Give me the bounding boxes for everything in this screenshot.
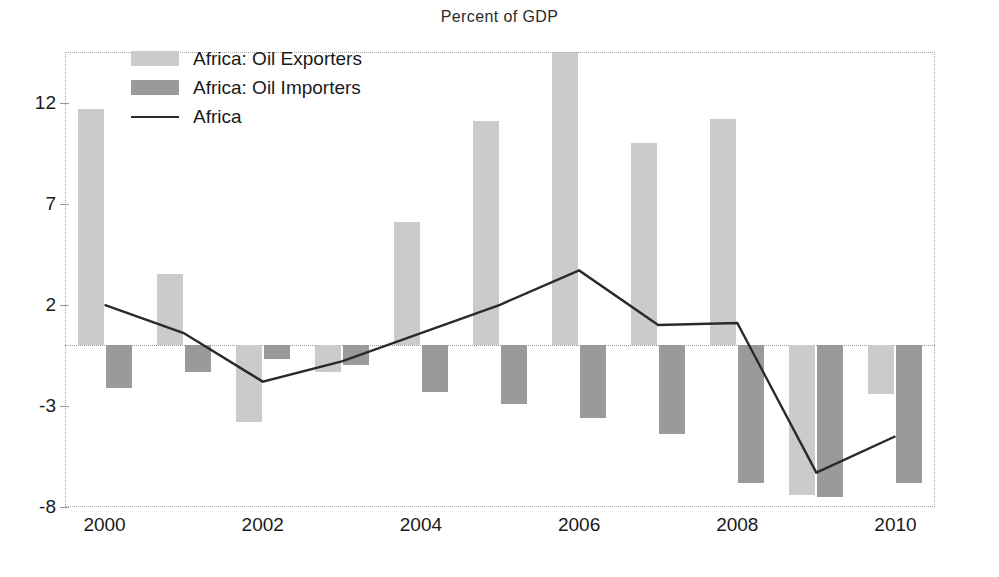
legend-item-oil-importers: Africa: Oil Importers xyxy=(131,73,362,102)
legend-item-africa: Africa xyxy=(131,102,362,131)
legend-swatch-oil-exporters-icon xyxy=(131,51,179,66)
legend-item-oil-exporters: Africa: Oil Exporters xyxy=(131,44,362,73)
legend-label-africa: Africa xyxy=(193,106,242,128)
x-tick-label: 2002 xyxy=(242,514,284,536)
x-tick-label: 2008 xyxy=(716,514,758,536)
chart-title: Percent of GDP xyxy=(0,8,999,26)
y-tick-mark xyxy=(60,204,69,205)
y-tick-label: 12 xyxy=(0,92,56,114)
legend-swatch-oil-importers-icon xyxy=(131,80,179,95)
legend-label-oil-exporters: Africa: Oil Exporters xyxy=(193,48,362,70)
y-tick-mark xyxy=(60,103,69,104)
x-tick-label: 2010 xyxy=(874,514,916,536)
y-tick-mark xyxy=(60,507,69,508)
legend-line-africa-icon xyxy=(131,109,179,124)
x-tick-label: 2004 xyxy=(400,514,442,536)
x-tick-label: 2000 xyxy=(83,514,125,536)
africa-line-path xyxy=(105,270,896,472)
y-tick-label: 7 xyxy=(0,193,56,215)
y-tick-label: -8 xyxy=(0,496,56,518)
x-tick-label: 2006 xyxy=(558,514,600,536)
y-tick-mark xyxy=(60,406,69,407)
y-tick-label: -3 xyxy=(0,395,56,417)
chart-legend: Africa: Oil Exporters Africa: Oil Import… xyxy=(131,44,362,131)
y-tick-mark xyxy=(60,305,69,306)
legend-label-oil-importers: Africa: Oil Importers xyxy=(193,77,361,99)
y-tick-label: 2 xyxy=(0,294,56,316)
